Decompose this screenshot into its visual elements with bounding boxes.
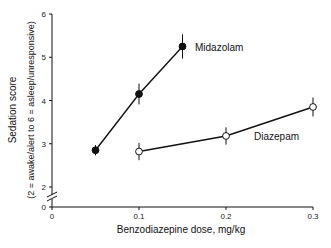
data-point [92,147,99,154]
data-point [179,43,186,50]
label-midazolam: Midazolam [195,42,243,53]
y-axis-subtitle: (2 = awake/alert to 6 = asleep/unrespons… [26,21,36,199]
y-tick-label: 0 [42,203,47,212]
y-tick-label: 3 [42,140,47,149]
data-point [310,104,317,111]
label-diazepam: Diazepam [254,131,299,142]
y-tick-label: 6 [42,10,47,19]
series-layer: MidazolamDiazepam [92,34,316,160]
x-tick-label: 0.3 [307,212,319,221]
x-tick-label: 0 [50,212,55,221]
axes: 02345600.10.20.3 [42,10,320,221]
x-axis-title: Benzodiazepine dose, mg/kg [117,224,245,235]
y-tick-label: 2 [42,183,47,192]
series-midazolam [92,34,186,155]
dose-response-chart: 02345600.10.20.3 MidazolamDiazepam Benzo… [0,0,331,248]
y-tick-label: 4 [42,97,47,106]
y-axis-title: Sedation score [7,76,18,143]
y-tick-label: 5 [42,53,47,62]
data-point [136,148,143,155]
data-point [136,91,143,98]
x-tick-label: 0.2 [220,212,232,221]
data-point [223,133,230,140]
x-tick-label: 0.1 [133,212,145,221]
series-diazepam [136,97,317,160]
